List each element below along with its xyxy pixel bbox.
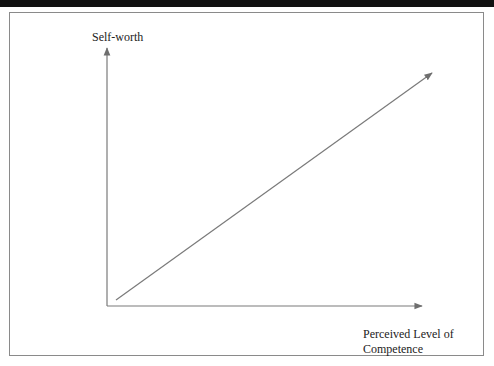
trend-line-arrow-icon	[116, 73, 432, 300]
x-axis-label-line2: Competence	[363, 342, 473, 357]
diagram-canvas	[0, 0, 494, 366]
x-axis-label: Perceived Level of Competence	[363, 327, 473, 357]
y-axis-label: Self-worth	[92, 30, 143, 45]
x-axis-label-line1: Perceived Level of	[363, 327, 473, 342]
